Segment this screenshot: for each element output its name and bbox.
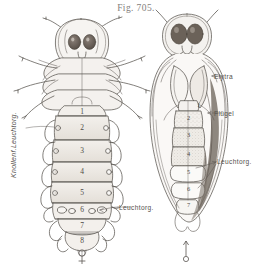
left-segment-number-1: 1: [77, 107, 87, 116]
left-segment-number-6: 6: [77, 205, 87, 214]
leader-knollen: [26, 126, 54, 128]
right-segment-number-3: 3: [184, 131, 193, 138]
left-segment-number-5: 5: [77, 188, 87, 197]
left-segment-number-8: 8: [77, 236, 87, 245]
left-segment-number-4: 4: [77, 167, 87, 176]
male-symbol-arrow: [183, 241, 188, 262]
left-segment-number-7: 7: [77, 221, 87, 230]
figure-plate: Fig. 705.: [0, 0, 272, 272]
left-segment-number-2: 2: [77, 123, 87, 132]
right-segment-number-4: 4: [184, 150, 193, 157]
label-fluegel: Flügel: [214, 110, 234, 117]
right-segment-number-7: 7: [184, 201, 193, 208]
right-segment-number-6: 6: [184, 185, 193, 192]
label-leuchtorg-right: Leuchtorg.: [217, 158, 252, 165]
illustration-canvas: [0, 0, 272, 272]
right-segment-number-5: 5: [184, 168, 193, 175]
left-segment-number-3: 3: [77, 146, 87, 155]
label-leuchtorg-left: Leuchtorg.: [119, 204, 154, 211]
left-figure-female: [14, 16, 150, 256]
label-knollen-leuchtorg: Knollenf.Leuchtorg.: [10, 112, 17, 178]
right-segment-number-2: 2: [184, 114, 193, 121]
right-segment-number-1: 1: [194, 101, 203, 108]
label-elytra: Elytra: [214, 73, 233, 80]
